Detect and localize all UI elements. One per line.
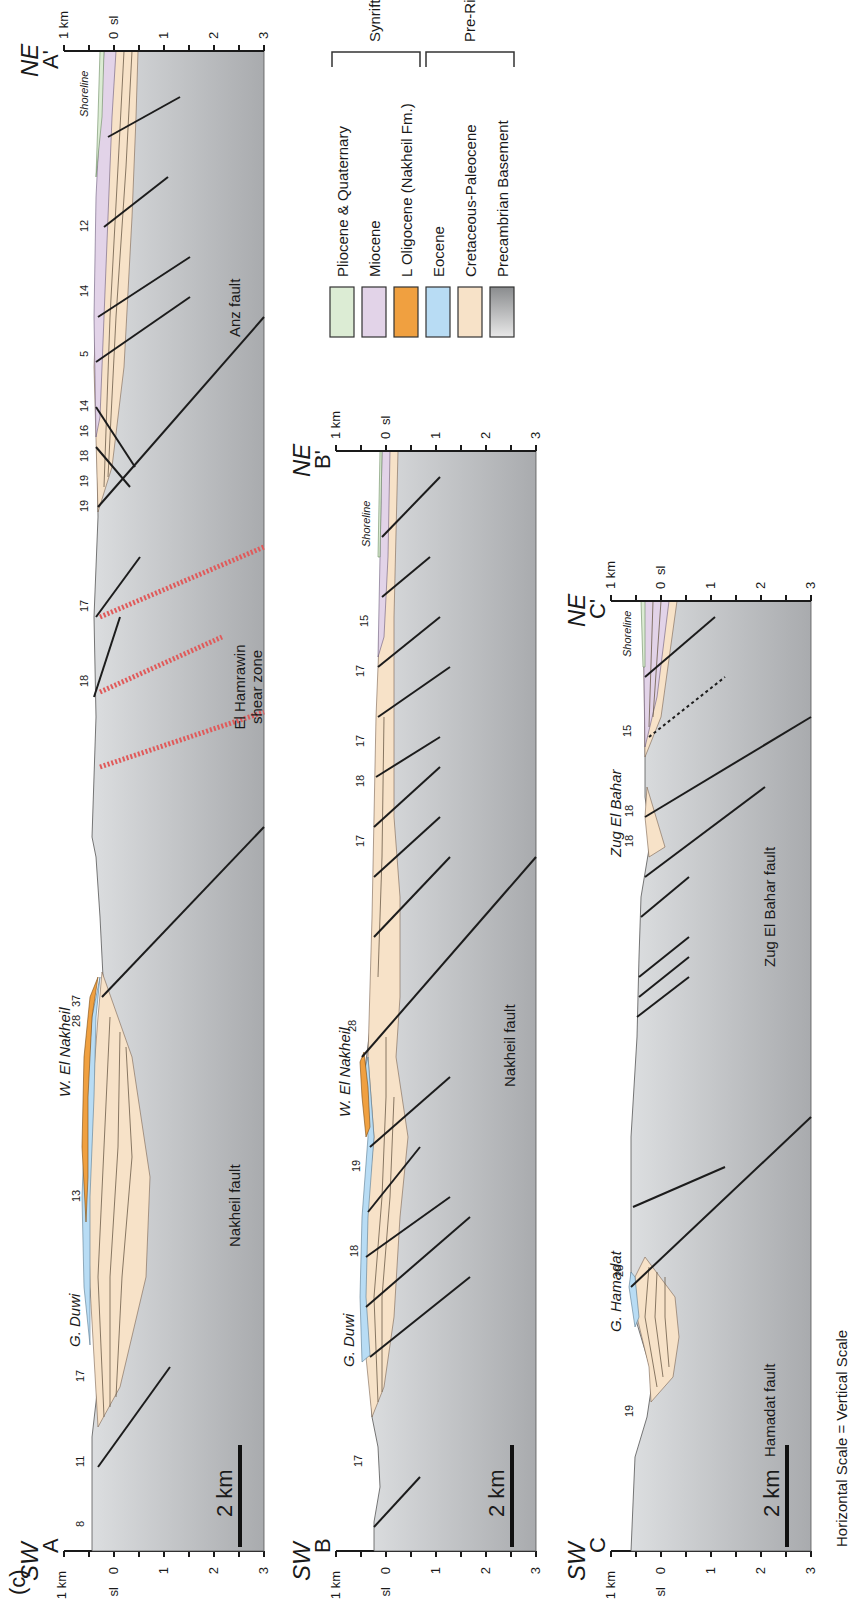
- svg-text:37: 37: [70, 995, 82, 1007]
- svg-text:1: 1: [428, 432, 443, 439]
- svg-text:16: 16: [78, 425, 90, 437]
- svg-text:0: 0: [378, 1567, 393, 1574]
- svg-text:Miocene: Miocene: [366, 220, 383, 277]
- svg-text:17: 17: [354, 735, 366, 747]
- legend-item-pliocene-quaternary: Pliocene & Quaternary: [330, 126, 354, 337]
- section-a-place-g-duwi: G. Duwi: [66, 1293, 83, 1347]
- svg-text:sl: sl: [106, 16, 121, 26]
- section-c-pliocene-layer: [641, 601, 645, 667]
- svg-text:L Oligocene (Nakheil Fm.): L Oligocene (Nakheil Fm.): [398, 103, 415, 277]
- svg-text:18: 18: [623, 835, 635, 847]
- legend-item-l-oligocene: L Oligocene (Nakheil Fm.): [394, 103, 418, 337]
- svg-text:2: 2: [753, 1567, 768, 1574]
- svg-text:5: 5: [78, 351, 90, 357]
- section-c-left-axis: 1 km sl 0 1 2 3: [603, 1551, 818, 1599]
- axis-top-label: 1 km: [54, 1571, 69, 1599]
- section-c-start-label: C: [585, 1537, 610, 1553]
- svg-text:18: 18: [623, 805, 635, 817]
- svg-text:sl: sl: [378, 1587, 393, 1597]
- svg-text:3: 3: [803, 1567, 818, 1574]
- prerift-bracket: [426, 52, 514, 67]
- section-c-place-zug-el-bahar: Zug El Bahar: [607, 768, 624, 858]
- legend-item-cretaceous-paleocene: Cretaceous-Paleocene: [458, 124, 482, 337]
- svg-text:15: 15: [621, 725, 633, 737]
- section-b-start-label: B: [310, 1538, 335, 1553]
- section-c-shoreline-label: Shoreline: [621, 611, 633, 657]
- svg-text:sl: sl: [378, 416, 393, 426]
- section-b-left-axis: 1 km sl 0 1 2 3: [328, 1551, 543, 1599]
- svg-text:sl: sl: [653, 1587, 668, 1597]
- svg-text:18: 18: [354, 775, 366, 787]
- svg-text:15: 15: [358, 615, 370, 627]
- section-c-hamadat-fault-label: Hamadat fault: [761, 1363, 778, 1457]
- scale-note: Horizontal Scale = Vertical Scale: [833, 1330, 850, 1547]
- svg-text:1 km: 1 km: [603, 561, 618, 589]
- section-b-place-g-duwi: G. Duwi: [340, 1313, 357, 1367]
- svg-text:19: 19: [350, 1160, 362, 1172]
- svg-text:18: 18: [78, 450, 90, 462]
- section-c-place-g-hamadat: G. Hamadat: [607, 1250, 624, 1332]
- svg-text:18: 18: [348, 1245, 360, 1257]
- axis-tick-1: 1: [156, 1567, 171, 1574]
- svg-text:2: 2: [206, 32, 221, 39]
- svg-text:Cretaceous-Paleocene: Cretaceous-Paleocene: [462, 124, 479, 277]
- svg-text:1: 1: [156, 32, 171, 39]
- section-c-right-axis: 1 km 0 sl 1 2 3: [603, 561, 818, 601]
- section-a-zone-label-2: shear zone: [248, 650, 265, 724]
- axis-sl-label: sl: [106, 1587, 121, 1597]
- section-c-scale-bar-label: 2 km: [759, 1469, 784, 1517]
- svg-text:3: 3: [256, 32, 271, 39]
- svg-text:1 km: 1 km: [56, 11, 71, 39]
- svg-text:14: 14: [78, 285, 90, 297]
- svg-text:2: 2: [478, 1567, 493, 1574]
- svg-text:0: 0: [378, 432, 393, 439]
- synrift-bracket: [332, 52, 420, 67]
- section-a-nakheil-fault-label: Nakheil fault: [226, 1164, 243, 1247]
- section-b-nakheil-fault-label: Nakheil fault: [501, 1004, 518, 1087]
- legend-item-precambrian-basement: Precambrian Basement: [490, 119, 514, 337]
- svg-text:1 km: 1 km: [603, 1571, 618, 1599]
- svg-text:2: 2: [753, 582, 768, 589]
- svg-text:19: 19: [78, 475, 90, 487]
- section-c-zug-el-bahar-fault-label: Zug El Bahar fault: [761, 846, 778, 967]
- svg-text:0: 0: [653, 582, 668, 589]
- svg-text:19: 19: [78, 500, 90, 512]
- svg-text:3: 3: [803, 582, 818, 589]
- svg-text:Eocene: Eocene: [430, 226, 447, 277]
- section-c: SW C NE C' 1 km sl 0 1 2 3: [563, 561, 850, 1599]
- svg-text:0: 0: [106, 32, 121, 39]
- svg-text:1: 1: [703, 1567, 718, 1574]
- svg-text:17: 17: [74, 1370, 86, 1382]
- svg-text:0: 0: [653, 1567, 668, 1574]
- section-a-anz-fault-label: Anz fault: [226, 278, 243, 337]
- section-a-shoreline-label: Shoreline: [78, 71, 90, 117]
- section-c-basement: [631, 601, 811, 1551]
- svg-text:18: 18: [78, 675, 90, 687]
- svg-text:17: 17: [354, 835, 366, 847]
- svg-text:Precambrian Basement: Precambrian Basement: [494, 119, 511, 277]
- svg-text:11: 11: [74, 1456, 86, 1467]
- svg-text:13: 13: [70, 1190, 82, 1202]
- svg-text:Pliocene & Quaternary: Pliocene & Quaternary: [334, 126, 351, 277]
- figure-canvas: (c) SW A NE A' 1 km sl 0 1 2 3: [0, 0, 867, 1617]
- axis-tick-3: 3: [256, 1567, 271, 1574]
- section-a-scale-bar-label: 2 km: [212, 1469, 237, 1517]
- svg-text:28: 28: [613, 1265, 625, 1277]
- axis-tick-2: 2: [206, 1567, 221, 1574]
- svg-text:1: 1: [703, 582, 718, 589]
- svg-text:1 km: 1 km: [328, 1571, 343, 1599]
- section-a-start-label: A: [38, 1538, 63, 1553]
- section-a-left-axis: 1 km sl 0 1 2 3: [54, 1551, 271, 1599]
- legend: Pliocene & Quaternary Miocene L Oligocen…: [330, 0, 514, 337]
- svg-text:1 km: 1 km: [328, 411, 343, 439]
- synrift-label: Synrift: [366, 0, 383, 42]
- section-b: SW B NE B' 1 km sl 0 1 2 3: [288, 411, 543, 1599]
- legend-item-miocene: Miocene: [362, 220, 386, 337]
- svg-text:17: 17: [78, 600, 90, 612]
- prerift-label: Pre-Rift: [461, 0, 478, 42]
- svg-text:8: 8: [74, 1521, 86, 1527]
- section-a-end-label: A': [38, 50, 63, 69]
- svg-text:12: 12: [78, 220, 90, 232]
- section-c-end-label: C': [585, 599, 610, 619]
- svg-text:3: 3: [528, 432, 543, 439]
